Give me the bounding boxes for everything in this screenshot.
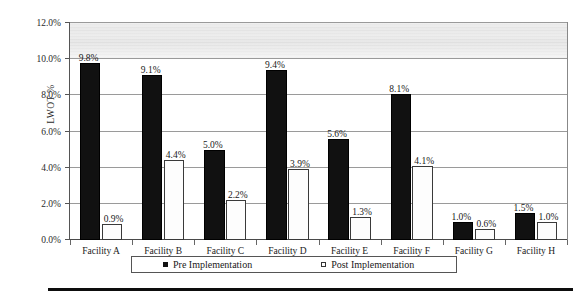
chart-legend: Pre Implementation Post Implementation bbox=[131, 256, 457, 273]
bar-value-label: 9.1% bbox=[141, 65, 161, 75]
bar-pre: 9.8% bbox=[80, 63, 100, 240]
bar-post: 0.6% bbox=[475, 229, 495, 240]
bar-pre: 9.1% bbox=[142, 75, 162, 240]
y-tick-label: 10.0% bbox=[36, 54, 61, 64]
x-axis-label: Facility A bbox=[82, 246, 120, 256]
bar-value-label: 8.1% bbox=[389, 84, 409, 94]
bottom-horizontal-rule bbox=[48, 288, 573, 291]
bar-group: 9.4%3.9%Facility D bbox=[256, 23, 318, 240]
bar-group: 5.6%1.3%Facility E bbox=[319, 23, 381, 240]
bar-value-label: 4.4% bbox=[166, 150, 186, 160]
bar-value-label: 5.6% bbox=[327, 129, 347, 139]
bar-post: 4.1% bbox=[412, 166, 432, 240]
bar-group: 1.0%0.6%Facility G bbox=[443, 23, 505, 240]
bar-value-label: 3.9% bbox=[290, 159, 310, 169]
bar-post: 0.9% bbox=[102, 224, 122, 240]
y-tick-label: 0.0% bbox=[41, 235, 61, 245]
bar-group: 9.1%4.4%Facility B bbox=[132, 23, 194, 240]
y-tick-label: 2.0% bbox=[41, 199, 61, 209]
x-axis-label: Facility C bbox=[206, 246, 244, 256]
x-axis-label: Facility B bbox=[144, 246, 182, 256]
legend-label-pre: Pre Implementation bbox=[173, 259, 252, 270]
bar-value-label: 1.0% bbox=[539, 212, 559, 222]
bar-value-label: 2.2% bbox=[228, 190, 248, 200]
x-axis-label: Facility H bbox=[517, 246, 555, 256]
bar-group: 1.5%1.0%Facility H bbox=[505, 23, 567, 240]
bar-pre: 1.0% bbox=[453, 222, 473, 240]
y-tick-label: 6.0% bbox=[41, 127, 61, 137]
bar-value-label: 9.4% bbox=[265, 60, 285, 70]
bar-post: 1.3% bbox=[350, 217, 370, 241]
x-axis-label: Facility E bbox=[331, 246, 368, 256]
x-axis-label: Facility G bbox=[455, 246, 493, 256]
x-tick-mark bbox=[256, 240, 257, 245]
x-tick-mark bbox=[505, 240, 506, 245]
bar-post: 4.4% bbox=[164, 160, 184, 240]
bar-group: 8.1%4.1%Facility F bbox=[381, 23, 443, 240]
x-axis-label: Facility F bbox=[393, 246, 430, 256]
y-tick-label: 12.0% bbox=[36, 18, 61, 28]
legend-label-post: Post Implementation bbox=[331, 259, 414, 270]
x-tick-mark bbox=[194, 240, 195, 245]
bar-pre: 1.5% bbox=[515, 213, 535, 240]
bar-pre: 9.4% bbox=[266, 70, 286, 240]
legend-swatch-hollow-square-icon bbox=[321, 262, 326, 267]
plot-area: 0.0%2.0%4.0%6.0%8.0%10.0%12.0% 9.8%0.9%F… bbox=[69, 22, 568, 240]
bar-post: 1.0% bbox=[537, 222, 557, 240]
y-tick-label: 8.0% bbox=[41, 90, 61, 100]
x-tick-mark bbox=[443, 240, 444, 245]
x-tick-mark bbox=[381, 240, 382, 245]
bar-pre: 5.0% bbox=[204, 150, 224, 240]
legend-entry-pre: Pre Implementation bbox=[163, 259, 252, 270]
bar-post: 2.2% bbox=[226, 200, 246, 240]
bar-value-label: 1.5% bbox=[514, 203, 534, 213]
bar-group: 9.8%0.9%Facility A bbox=[70, 23, 132, 240]
bar-pre: 8.1% bbox=[391, 94, 411, 240]
bar-group: 5.0%2.2%Facility C bbox=[194, 23, 256, 240]
x-axis-label: Facility D bbox=[268, 246, 306, 256]
bar-value-label: 9.8% bbox=[79, 53, 99, 63]
x-tick-mark bbox=[319, 240, 320, 245]
bar-value-label: 0.9% bbox=[104, 214, 124, 224]
bar-value-label: 1.3% bbox=[352, 207, 372, 217]
bar-chart-figure: LWOT % 0.0%2.0%4.0%6.0%8.0%10.0%12.0% 9.… bbox=[0, 0, 586, 296]
bar-post: 3.9% bbox=[288, 169, 308, 240]
bar-value-label: 5.0% bbox=[203, 140, 223, 150]
legend-swatch-filled-square-icon bbox=[163, 262, 168, 267]
bar-value-label: 0.6% bbox=[476, 219, 496, 229]
x-tick-mark bbox=[132, 240, 133, 245]
y-tick-label: 4.0% bbox=[41, 163, 61, 173]
bar-value-label: 4.1% bbox=[414, 156, 434, 166]
x-tick-mark bbox=[567, 240, 568, 245]
x-tick-mark bbox=[70, 240, 71, 245]
bar-pre: 5.6% bbox=[328, 139, 348, 240]
legend-entry-post: Post Implementation bbox=[321, 259, 414, 270]
bar-value-label: 1.0% bbox=[451, 212, 471, 222]
